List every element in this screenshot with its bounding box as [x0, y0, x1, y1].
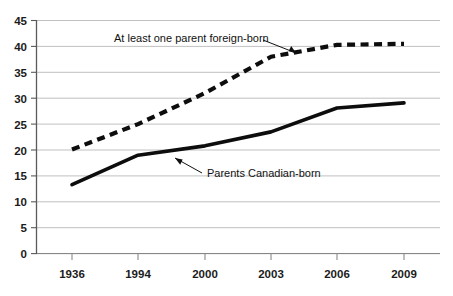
y-tick-label: 0 — [21, 248, 27, 260]
y-tick-label: 40 — [14, 41, 27, 53]
y-tick-label: 10 — [14, 196, 27, 208]
y-axis-tick-labels: 45 40 35 30 25 20 15 10 5 0 — [14, 15, 27, 260]
x-tick-label: 2000 — [192, 268, 218, 280]
line-chart: 45 40 35 30 25 20 15 10 5 0 1936 1994 20… — [0, 0, 453, 296]
annotation-foreign-born-arrowhead — [289, 46, 297, 53]
x-axis-tick-labels: 1936 1994 2000 2003 2006 2009 — [59, 268, 417, 280]
x-tick-label: 2009 — [391, 268, 417, 280]
y-tick-label: 5 — [21, 222, 28, 234]
series-line-foreign-born — [72, 44, 404, 150]
x-tick-label: 1994 — [125, 268, 151, 280]
annotation-foreign-born-label: At least one parent foreign-born — [114, 32, 269, 44]
chart-container: 45 40 35 30 25 20 15 10 5 0 1936 1994 20… — [0, 0, 453, 296]
x-tickmarks — [72, 254, 404, 260]
x-tick-label: 2003 — [258, 268, 284, 280]
annotation-canadian-born-arrowhead — [175, 158, 183, 165]
y-tick-label: 35 — [14, 67, 27, 79]
x-tick-label: 1936 — [59, 268, 85, 280]
y-tick-label: 30 — [14, 93, 27, 105]
y-tick-label: 15 — [14, 170, 27, 182]
annotation-foreign-born: At least one parent foreign-born — [114, 32, 296, 53]
y-tickmarks — [31, 21, 37, 254]
series-group — [72, 44, 404, 185]
annotation-canadian-born-label: Parents Canadian-born — [207, 167, 321, 179]
y-tick-label: 25 — [14, 119, 27, 131]
y-tick-label: 45 — [14, 15, 27, 27]
y-tick-label: 20 — [14, 145, 27, 157]
x-tick-label: 2006 — [324, 268, 350, 280]
